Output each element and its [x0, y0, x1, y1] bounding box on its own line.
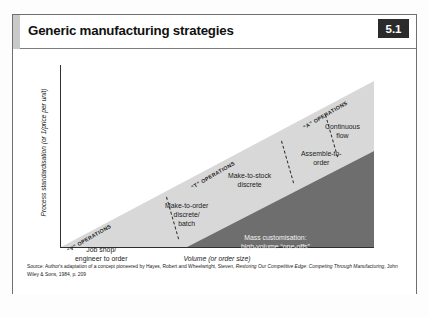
- zone-line: high-volume “one-offs”: [241, 242, 310, 251]
- zone-label-continuous-flow: Continuous flow: [325, 122, 360, 140]
- source-prefix: Source: Author's adaptation of a concept…: [27, 264, 236, 269]
- zone-line: Mass customisation:: [241, 233, 310, 242]
- zone-label-mass-customisation: Mass customisation: high-volume “one-off…: [241, 233, 310, 251]
- zone-label-make-to-order: Make-to-order discrete/ batch: [165, 201, 208, 228]
- zone-line: Continuous: [325, 122, 360, 131]
- zone-line: batch: [165, 219, 208, 228]
- figure-number-badge: 5.1: [378, 19, 409, 38]
- zone-line: flow: [325, 131, 360, 140]
- chart-plot-area: Process standardisation (or 1/price per …: [13, 49, 416, 295]
- source-book-title: Restoring Our Competitive Edge: Competin…: [236, 264, 385, 269]
- source-note: Source: Author's adaptation of a concept…: [27, 263, 405, 278]
- figure-card: Generic manufacturing strategies 5.1 Pro…: [12, 14, 417, 294]
- zone-line: Job shop/: [75, 245, 127, 254]
- zone-line: discrete/: [165, 210, 208, 219]
- zone-line: discrete: [228, 180, 271, 189]
- y-axis-line: [60, 65, 61, 248]
- zone-label-assemble-to-order: Assemble-to- order: [301, 149, 342, 167]
- zone-line: order: [301, 158, 342, 167]
- zone-line: Make-to-stock: [228, 171, 271, 180]
- figure-page: Generic manufacturing strategies 5.1 Pro…: [0, 0, 429, 317]
- figure-header: Generic manufacturing strategies 5.1: [13, 15, 416, 49]
- header-accent-bar: [13, 15, 20, 49]
- zone-line: Make-to-order: [165, 201, 208, 210]
- y-axis-label: Process standardisation (or 1/price per …: [40, 63, 47, 243]
- zone-line: engineer to order: [75, 254, 127, 263]
- zone-label-job-shop: Job shop/ engineer to order: [75, 245, 127, 263]
- figure-title: Generic manufacturing strategies: [28, 23, 234, 38]
- zone-label-make-to-stock: Make-to-stock discrete: [228, 171, 271, 189]
- zone-line: Assemble-to-: [301, 149, 342, 158]
